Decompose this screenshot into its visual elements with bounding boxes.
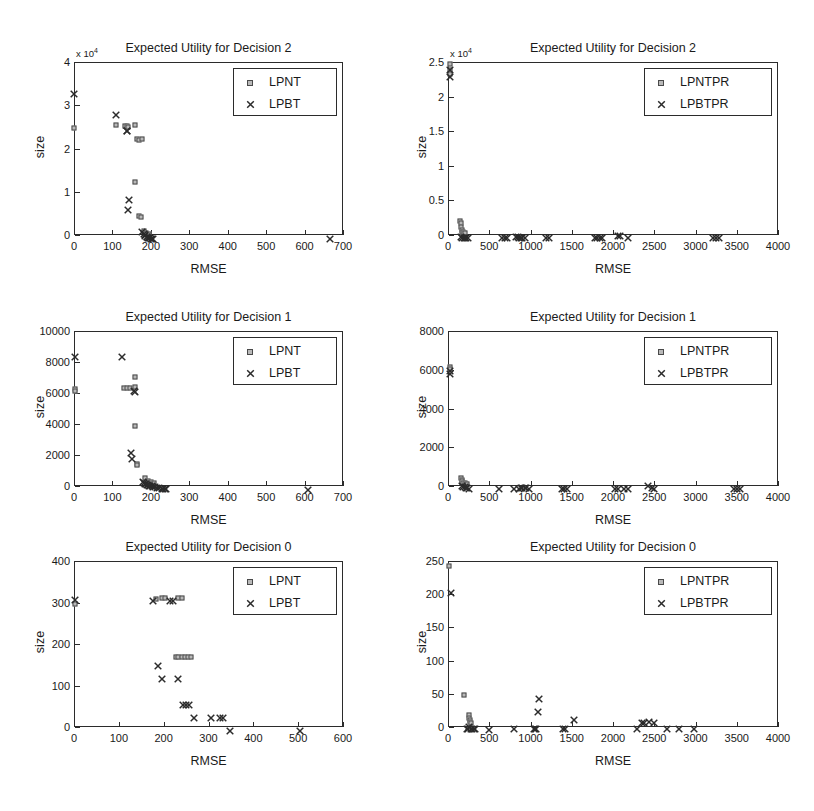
legend-square-glyph xyxy=(658,579,664,585)
panel-top-right-xtick-label: 0 xyxy=(445,240,451,252)
panel-top-right-xtick-label: 500 xyxy=(480,240,498,252)
panel-top-right-marker-x xyxy=(623,229,632,238)
panel-bot-left-marker-x xyxy=(190,709,199,718)
panel-top-left-xtick-mark xyxy=(266,230,267,235)
panel-mid-left-legend-item[interactable]: LPNT xyxy=(239,343,301,359)
panel-top-left-legend-item[interactable]: LPNT xyxy=(239,74,301,90)
panel-bot-right-ytick-label: 150 xyxy=(400,621,444,633)
panel-top-right-multiplier-text: x 10 xyxy=(450,48,468,59)
panel-top-right-xtick-mark xyxy=(489,230,490,235)
panel-bot-left-xtick-mark xyxy=(253,722,254,727)
panel-top-left-marker-x xyxy=(112,106,121,115)
panel-mid-left-title: Expected Utility for Decision 1 xyxy=(74,310,343,324)
panel-bot-left-marker-x xyxy=(168,592,177,601)
panel-mid-left-xtick-mark xyxy=(343,481,344,486)
panel-mid-left-ytick-label: 0 xyxy=(26,480,70,492)
panel-top-right-ytick-label: 2 xyxy=(400,91,444,103)
panel-mid-left-legend-item[interactable]: LPBT xyxy=(239,365,300,381)
panel-top-right-marker-x xyxy=(714,229,723,238)
panel-top-left-xtick-mark xyxy=(343,230,344,235)
panel-top-right-ytick-mark xyxy=(449,200,454,201)
panel-bot-right-xtick-label: 2500 xyxy=(642,732,666,744)
panel-bot-right-xtick-label: 3000 xyxy=(683,732,707,744)
panel-bot-right-legend-item[interactable]: LPNTPR xyxy=(650,573,729,589)
panel-mid-right-ytick-label: 2000 xyxy=(400,441,444,453)
panel-mid-right-xlabel: RMSE xyxy=(448,513,778,527)
panel-mid-left-xtick-mark xyxy=(112,481,113,486)
panel-mid-right-ytick-label: 6000 xyxy=(400,364,444,376)
legend-square-glyph xyxy=(658,349,664,355)
panel-bot-right-xtick-label: 0 xyxy=(445,732,451,744)
panel-top-left-marker-x xyxy=(123,122,132,131)
panel-mid-right-legend-item[interactable]: LPNTPR xyxy=(650,343,729,359)
panel-bot-left-marker-x xyxy=(153,657,162,666)
panel-mid-right-ytick-mark xyxy=(449,331,454,332)
panel-bot-right-xlabel: RMSE xyxy=(448,754,778,768)
panel-top-right-marker-x xyxy=(463,229,472,238)
panel-mid-right-legend-item[interactable]: LPBTPR xyxy=(650,365,729,381)
panel-top-right-marker-x xyxy=(598,229,607,238)
panel-mid-right-ytick-mark xyxy=(449,447,454,448)
panel-top-left-legend-label: LPNT xyxy=(269,75,301,89)
panel-mid-left-marker-x xyxy=(70,347,79,356)
panel-mid-left-marker-x xyxy=(131,382,140,391)
panel-top-left-xlabel: RMSE xyxy=(74,262,343,276)
panel-mid-left-ytick-mark xyxy=(75,362,80,363)
panel-top-right-legend-item[interactable]: LPBTPR xyxy=(650,96,729,112)
legend-square-glyph xyxy=(247,579,253,585)
panel-top-left-marker-x xyxy=(70,85,79,94)
panel-top-right-legend-item[interactable]: LPNTPR xyxy=(650,74,729,90)
panel-bot-right-ytick-mark xyxy=(449,561,454,562)
panel-top-right-legend-label: LPBTPR xyxy=(680,97,729,111)
panel-top-left-ytick-label: 2 xyxy=(26,143,70,155)
panel-bot-left-xtick-label: 400 xyxy=(244,732,262,744)
panel-top-right-marker-x xyxy=(520,229,529,238)
panel-bot-right-marker-x xyxy=(510,719,519,728)
panel-mid-left-ytick-label: 8000 xyxy=(26,356,70,368)
panel-top-left-legend-item[interactable]: LPBT xyxy=(239,96,300,112)
panel-mid-left-ytick-mark xyxy=(75,424,80,425)
panel-bot-right-marker-x xyxy=(689,719,698,728)
panel-bot-left-title: Expected Utility for Decision 0 xyxy=(74,540,343,554)
panel-mid-left-ytick-label: 2000 xyxy=(26,449,70,461)
panel-bot-left-marker-x xyxy=(226,721,235,730)
panel-top-left-marker-square xyxy=(139,214,144,219)
panel-top-right-marker-x xyxy=(544,229,553,238)
panel-bot-left-xtick-label: 200 xyxy=(154,732,172,744)
panel-bot-left-ytick-mark xyxy=(75,686,80,687)
legend-x-icon xyxy=(650,95,672,113)
panel-top-left-ytick-label: 3 xyxy=(26,99,70,111)
panel-top-left-xtick-mark xyxy=(189,230,190,235)
panel-bot-left-xlabel: RMSE xyxy=(74,754,343,768)
panel-bot-right-legend-item[interactable]: LPBTPR xyxy=(650,595,729,611)
panel-top-left-xtick-label: 100 xyxy=(103,240,121,252)
panel-top-left-xtick-label: 700 xyxy=(334,240,352,252)
panel-mid-left-ytick-label: 6000 xyxy=(26,387,70,399)
panel-top-left-xtick-mark xyxy=(112,230,113,235)
panel-mid-right-xtick-mark xyxy=(778,481,779,486)
panel-mid-right-ytick-mark xyxy=(449,409,454,410)
panel-bot-left-legend-item[interactable]: LPBT xyxy=(239,595,300,611)
panel-mid-left-xtick-label: 300 xyxy=(180,491,198,503)
panel-bot-left-ytick-mark xyxy=(75,727,80,728)
panel-bot-right-xtick-mark xyxy=(613,722,614,727)
panel-bot-left-legend-item[interactable]: LPNT xyxy=(239,573,301,589)
panel-mid-left-xtick-label: 400 xyxy=(219,491,237,503)
panel-bot-left-marker-x xyxy=(148,591,157,600)
panel-mid-right-legend-label: LPNTPR xyxy=(680,344,729,358)
panel-bot-left-ytick-label: 200 xyxy=(26,638,70,650)
panel-mid-left-marker-square xyxy=(133,423,138,428)
panel-mid-right-xtick-label: 0 xyxy=(445,491,451,503)
panel-mid-right-xtick-mark xyxy=(572,481,573,486)
panel-bot-right-marker-x xyxy=(471,720,480,729)
panel-top-right-ytick-label: 0 xyxy=(400,229,444,241)
panel-top-left-marker-square xyxy=(139,137,144,142)
panel-mid-left-xtick-label: 700 xyxy=(334,491,352,503)
panel-mid-left-marker-square xyxy=(72,388,77,393)
panel-top-left-xtick-mark xyxy=(228,230,229,235)
panel-bot-left-ytick-mark xyxy=(75,644,80,645)
panel-top-left-xtick-mark xyxy=(305,230,306,235)
panel-mid-right-marker-x xyxy=(650,479,659,488)
panel-bot-right-marker-x xyxy=(532,719,541,728)
panel-top-left-marker-square xyxy=(132,180,137,185)
